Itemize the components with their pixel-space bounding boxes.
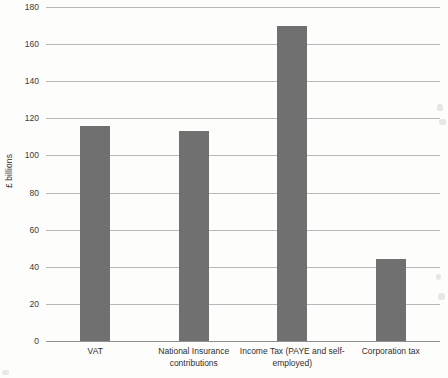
category-label-line: Corporation tax	[335, 346, 448, 358]
y-axis-tick-label: 80	[30, 188, 39, 197]
scan-artifact	[2, 370, 9, 375]
category-label: National Insurancecontributions	[138, 346, 251, 369]
y-axis-title-text: £ billions	[4, 153, 14, 187]
gridline	[46, 118, 440, 119]
bar[interactable]	[277, 26, 307, 341]
gridline	[46, 44, 440, 45]
gridline	[46, 81, 440, 82]
y-axis-tick-label: 140	[25, 77, 39, 86]
scan-artifact	[438, 293, 445, 300]
bar-chart-figure: £ billions 020406080100120140160180 VATN…	[0, 0, 448, 378]
category-label: VAT	[39, 346, 152, 358]
y-axis-tick-label: 180	[25, 3, 39, 12]
scan-artifact	[436, 274, 441, 280]
y-axis-tick-label: 40	[30, 263, 39, 272]
gridline	[46, 7, 440, 8]
y-axis-tick-label: 100	[25, 151, 39, 160]
category-label: Corporation tax	[335, 346, 448, 358]
scan-artifact	[437, 104, 443, 111]
category-label-line: contributions	[138, 358, 251, 370]
category-axis-labels: VATNational InsurancecontributionsIncome…	[46, 346, 440, 378]
bar[interactable]	[80, 126, 110, 341]
bar[interactable]	[376, 259, 406, 341]
category-label-line: VAT	[39, 346, 152, 358]
category-label-line: Income Tax (PAYE and self-	[236, 346, 349, 358]
x-axis-baseline	[46, 341, 440, 342]
y-axis-tick-label: 160	[25, 40, 39, 49]
y-axis-title: £ billions	[0, 0, 18, 341]
y-axis-tick-label: 120	[25, 114, 39, 123]
y-axis-tick-label: 0	[34, 337, 39, 346]
y-axis-tick-label: 20	[30, 300, 39, 309]
plot-area: 020406080100120140160180	[46, 7, 440, 341]
scan-artifact	[439, 119, 446, 125]
category-label: Income Tax (PAYE and self-employed)	[236, 346, 349, 369]
y-axis-tick-label: 60	[30, 225, 39, 234]
bar[interactable]	[179, 131, 209, 341]
category-label-line: employed)	[236, 358, 349, 370]
category-label-line: National Insurance	[138, 346, 251, 358]
